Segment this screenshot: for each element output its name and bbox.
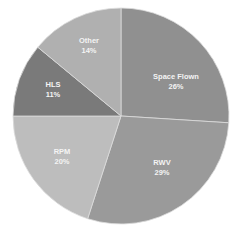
percentage: 29% <box>153 168 170 178</box>
category-name: RPM <box>54 147 71 157</box>
percentage: 26% <box>153 82 199 92</box>
pie-chart <box>0 0 242 230</box>
pie-slices <box>13 8 229 224</box>
slice-label-rpm: RPM 20% <box>54 147 71 167</box>
slice-label-rwv: RWV 29% <box>153 158 170 178</box>
percentage: 11% <box>46 90 61 100</box>
percentage: 20% <box>54 157 71 167</box>
pie-slice-space-flown <box>121 8 229 123</box>
category-name: Space Flown <box>153 72 199 82</box>
percentage: 14% <box>79 46 99 56</box>
slice-label-hls: HLS 11% <box>46 80 61 100</box>
slice-label-other: Other 14% <box>79 36 99 56</box>
category-name: HLS <box>46 80 61 90</box>
category-name: Other <box>79 36 99 46</box>
slice-label-space-flown: Space Flown 26% <box>153 72 199 92</box>
category-name: RWV <box>153 158 170 168</box>
